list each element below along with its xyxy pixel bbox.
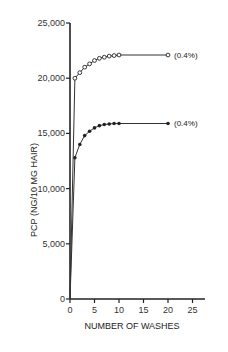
y-tick-label: 20,000: [37, 73, 65, 83]
data-point-open: [112, 54, 116, 58]
data-point-open: [83, 65, 87, 69]
data-point-filled: [107, 122, 111, 126]
y-tick-label: 5,000: [42, 239, 65, 249]
data-point-open: [73, 76, 77, 80]
x-tick-label: 0: [67, 305, 72, 315]
y-tick-label: 15,000: [37, 128, 65, 138]
data-point-open: [107, 54, 111, 58]
y-tick-label: 25,000: [37, 18, 65, 28]
data-point-filled: [166, 122, 170, 126]
series-annotation: (0.4%): [174, 119, 198, 128]
series-annotation: (0.4%): [174, 51, 198, 60]
data-point-filled: [98, 124, 102, 128]
data-point-open: [102, 55, 106, 59]
data-point-open: [78, 71, 82, 75]
data-point-open: [88, 62, 92, 66]
data-point-filled: [112, 122, 116, 126]
series-layer: (0.4%)(0.4%): [70, 51, 198, 299]
data-point-filled: [117, 122, 121, 126]
filled-circle-series: (0.4%): [70, 119, 198, 299]
data-point-open: [166, 53, 170, 57]
data-point-filled: [83, 134, 87, 138]
data-point-filled: [73, 156, 77, 160]
y-tick-label: 0: [60, 294, 65, 304]
x-tick-label: 25: [187, 305, 197, 315]
x-tick-label: 15: [138, 305, 148, 315]
data-point-filled: [88, 129, 92, 133]
data-point-filled: [93, 126, 97, 130]
data-point-open: [93, 59, 97, 63]
x-tick-label: 10: [114, 305, 124, 315]
x-tick-label: 20: [163, 305, 173, 315]
x-axis: 0510152025: [67, 299, 205, 315]
data-point-filled: [103, 123, 107, 127]
data-point-open: [117, 53, 121, 57]
data-point-open: [98, 56, 102, 60]
x-tick-label: 5: [92, 305, 97, 315]
y-tick-label: 10,000: [37, 184, 65, 194]
y-axis: 05,00010,00015,00020,00025,000: [37, 18, 70, 304]
data-point-filled: [78, 143, 82, 147]
open-circle-series: (0.4%): [70, 51, 198, 299]
y-axis-title: PCP (NG/10 MG HAIR): [29, 143, 39, 237]
washes-line-chart: 05,00010,00015,00020,00025,000 051015202…: [0, 0, 228, 352]
x-axis-title: NUMBER OF WASHES: [84, 321, 179, 331]
